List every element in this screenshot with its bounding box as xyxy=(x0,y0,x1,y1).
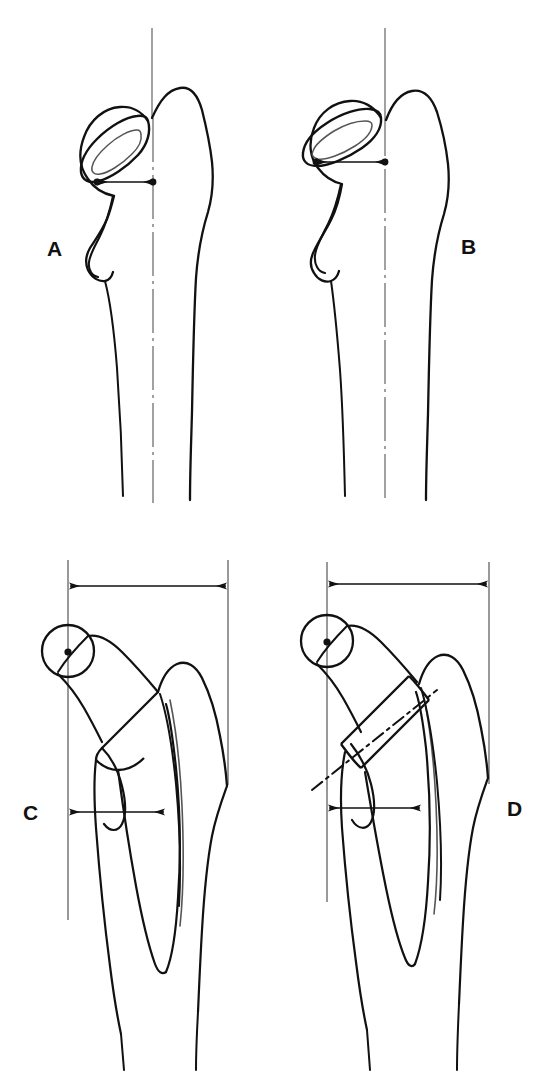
panel-d-calcar-medial-cortex xyxy=(341,752,367,1030)
panel-b xyxy=(303,28,449,503)
panel-label-a: A xyxy=(47,238,62,259)
panel-c-femoral-neck-inferior xyxy=(58,674,102,742)
panel-c-shaft-medial-lower xyxy=(121,1034,124,1070)
panel-d-greater-trochanter xyxy=(419,655,488,778)
panel-c-implant-collar xyxy=(96,692,158,760)
panel-a-neck-resection-ellipse xyxy=(81,116,149,182)
panel-c xyxy=(42,560,228,1070)
panel-c-implant-shoulder xyxy=(96,758,144,770)
panel-d-femoral-neck-superior xyxy=(347,626,417,682)
panel-d-implant-stem-medial xyxy=(365,772,415,966)
panel-d-lateral-cortex xyxy=(459,778,488,1004)
panel-d-head-neck-junction xyxy=(317,626,347,662)
panel-d-femoral-neck-inferior xyxy=(317,664,361,732)
panel-a-lesser-trochanter-outline xyxy=(89,196,113,277)
panel-d-implant-stem-lateral xyxy=(415,692,430,964)
panel-b-femur-outline xyxy=(386,91,449,500)
panel-d xyxy=(301,562,489,1070)
panel-d-shaft-lateral-lower xyxy=(457,1004,459,1070)
panel-c-shaft-lateral-lower xyxy=(196,1012,198,1070)
panel-c-head-neck-junction xyxy=(58,636,88,672)
panel-d-implant-collar-lower xyxy=(361,700,429,768)
figure-canvas xyxy=(0,0,552,1086)
panel-a-femur-outline xyxy=(152,88,213,500)
panel-b-shaft-medial-border xyxy=(331,281,345,496)
panel-c-calcar-medial-cortex xyxy=(95,760,122,1034)
panel-label-b: B xyxy=(461,236,476,257)
panel-c-lateral-cortex xyxy=(198,786,227,1012)
panel-d-osteotomy-dashdot-line xyxy=(312,690,437,790)
panel-d-shaft-medial-lower xyxy=(367,1030,370,1070)
panel-d-implant-collar-right-edge xyxy=(409,676,429,700)
panel-d-implant-collar-upper xyxy=(341,676,409,744)
panel-d-intertrochanteric-line xyxy=(421,688,441,900)
panel-a-offset-dot-axis xyxy=(150,179,157,186)
panel-b-offset-dot-axis xyxy=(382,159,389,166)
panel-c-femoral-neck-superior xyxy=(88,636,158,692)
panel-a-offset-dot-medial xyxy=(94,179,101,186)
figure-root: A B C D xyxy=(0,0,552,1086)
panel-b-offset-dot-medial xyxy=(313,159,320,166)
panel-b-lesser-trochanter-outline xyxy=(315,184,341,273)
panel-label-d: D xyxy=(507,798,522,819)
panel-label-c: C xyxy=(23,802,38,823)
panel-a-shaft-medial-border xyxy=(105,281,123,496)
panel-a xyxy=(81,28,213,503)
